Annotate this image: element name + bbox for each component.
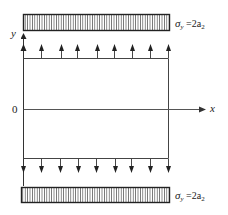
- x-axis-arrow-icon: [199, 107, 206, 113]
- bottom-load-bar: [22, 188, 170, 203]
- plate: [24, 59, 169, 159]
- top-tension-arrows: [21, 44, 172, 58]
- top-stress-label: σy =2a2: [175, 17, 205, 31]
- x-axis-label: x: [209, 102, 215, 114]
- plate-diagram: σy =2a2 y x 0: [0, 0, 228, 215]
- y-axis-label: y: [10, 27, 16, 39]
- origin-label: 0: [12, 103, 18, 115]
- bottom-stress-label: σy =2a2: [175, 189, 205, 203]
- bottom-tension-arrows: [21, 159, 171, 173]
- top-load-bar: [24, 15, 170, 31]
